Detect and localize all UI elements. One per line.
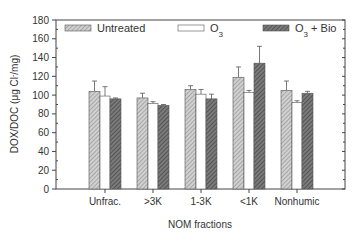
legend: UntreatedO3O3 + Bio (65, 22, 336, 39)
bar (89, 91, 100, 189)
y-tick-label: 80 (38, 108, 50, 119)
legend-swatch (65, 25, 91, 31)
bar (302, 93, 313, 189)
bar (110, 99, 121, 189)
y-tick-label: 100 (32, 90, 49, 101)
bar (244, 92, 254, 189)
bar (233, 77, 244, 189)
y-tick-label: 160 (32, 33, 49, 44)
legend-label: O3 + Bio (295, 22, 336, 39)
x-tick-label: Nonhumic (274, 196, 319, 207)
x-axis: Unfrac.>3K1-3K<1KNonhumic (89, 189, 320, 207)
y-tick-label: 20 (38, 165, 50, 176)
bar (196, 94, 206, 189)
legend-label: O3 (210, 22, 224, 39)
legend-swatch (178, 25, 204, 31)
bar (137, 98, 148, 189)
bar (206, 99, 217, 189)
y-axis-title: DOX/DOC (μg Cl-/mg) (9, 55, 21, 154)
legend-item: O3 + Bio (263, 22, 336, 39)
x-tick-label: >3K (144, 196, 162, 207)
bar (158, 105, 169, 189)
bar (148, 104, 158, 189)
bar (292, 103, 302, 189)
bar-series (89, 46, 313, 189)
bar-chart: 020406080100120140160180 Unfrac.>3K1-3K<… (0, 0, 355, 241)
bar (281, 90, 292, 189)
y-tick-label: 140 (32, 52, 49, 63)
bar (100, 96, 110, 189)
y-tick-label: 180 (32, 15, 49, 26)
legend-swatch (263, 25, 289, 31)
series-o3 (100, 87, 302, 189)
legend-label: Untreated (97, 22, 145, 34)
y-tick-label: 120 (32, 71, 49, 82)
bar (254, 63, 265, 189)
x-axis-title: NOM fractions (168, 219, 232, 230)
x-tick-label: <1K (240, 196, 258, 207)
bar (185, 89, 196, 189)
legend-item: Untreated (65, 22, 145, 34)
y-tick-label: 0 (43, 184, 49, 195)
y-tick-label: 40 (38, 146, 50, 157)
legend-item: O3 (178, 22, 224, 39)
x-tick-label: 1-3K (190, 196, 211, 207)
x-tick-label: Unfrac. (89, 196, 121, 207)
y-tick-label: 60 (38, 127, 50, 138)
